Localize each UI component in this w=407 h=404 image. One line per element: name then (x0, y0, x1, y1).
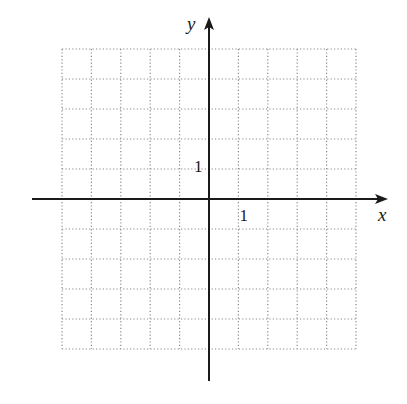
x-axis-label: x (377, 204, 387, 225)
coordinate-plane: x y 11 (0, 0, 407, 404)
tick-labels: 11 (194, 157, 248, 225)
axes (32, 17, 388, 381)
y-tick-label: 1 (194, 157, 203, 176)
x-tick-label: 1 (239, 206, 248, 225)
y-axis-label: y (185, 13, 196, 34)
